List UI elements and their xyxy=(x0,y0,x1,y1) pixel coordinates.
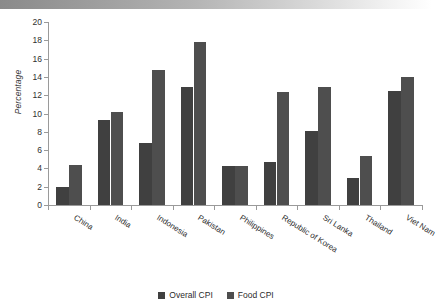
bar-china-overall-cpi xyxy=(56,187,69,205)
y-axis-tick-label: 20 xyxy=(33,17,42,27)
y-axis-tick xyxy=(44,114,49,115)
x-axis-label-thailand: Thailand xyxy=(363,213,394,237)
x-axis-tick xyxy=(214,205,215,210)
legend-item-food-cpi[interactable]: Food CPI xyxy=(227,290,274,300)
bar-philippines-food-cpi xyxy=(235,166,248,205)
x-axis-line xyxy=(48,205,422,206)
y-axis-tick xyxy=(44,95,49,96)
bar-pakistan-food-cpi xyxy=(194,42,207,205)
x-axis-tick xyxy=(90,205,91,210)
y-axis-tick-label: 0 xyxy=(37,200,42,210)
x-axis-tick xyxy=(48,205,49,210)
x-axis-label-sri-lanka: Sri Lanka xyxy=(321,213,354,239)
legend-label: Food CPI xyxy=(238,290,274,300)
x-axis-tick xyxy=(173,205,174,210)
bar-india-food-cpi xyxy=(111,112,124,205)
bar-philippines-overall-cpi xyxy=(222,166,235,205)
bar-chart: Percentage 02468101214161820 ChinaIndiaI… xyxy=(0,9,432,307)
bar-viet-nam-overall-cpi xyxy=(388,91,401,205)
bar-viet-nam-food-cpi xyxy=(401,77,414,205)
x-axis-label-china: China xyxy=(72,213,94,232)
bar-indonesia-overall-cpi xyxy=(139,143,152,205)
y-axis-tick xyxy=(44,187,49,188)
bar-indonesia-food-cpi xyxy=(152,70,165,205)
y-axis-tick xyxy=(44,150,49,151)
x-axis-tick xyxy=(380,205,381,210)
legend-swatch-icon xyxy=(158,292,165,299)
bar-thailand-food-cpi xyxy=(360,156,373,205)
legend-swatch-icon xyxy=(227,292,234,299)
bar-sri-lanka-food-cpi xyxy=(318,87,331,205)
y-axis-tick xyxy=(44,59,49,60)
x-axis-label-philippines: Philippines xyxy=(238,213,276,241)
y-axis-tick xyxy=(44,77,49,78)
bar-india-overall-cpi xyxy=(98,120,111,205)
chart-legend: Overall CPIFood CPI xyxy=(0,290,432,300)
plot-area: 02468101214161820 ChinaIndiaIndonesiaPak… xyxy=(48,22,422,205)
y-axis-tick xyxy=(44,40,49,41)
bar-republic-of-korea-overall-cpi xyxy=(264,162,277,205)
x-axis-tick xyxy=(297,205,298,210)
x-axis-tick xyxy=(422,205,423,210)
x-axis-label-viet-nam: Viet Nam xyxy=(404,213,437,238)
bar-thailand-overall-cpi xyxy=(347,178,360,205)
y-axis-tick xyxy=(44,168,49,169)
x-axis-tick xyxy=(131,205,132,210)
y-axis-tick-label: 18 xyxy=(33,35,42,45)
legend-item-overall-cpi[interactable]: Overall CPI xyxy=(158,290,212,300)
x-axis-label-india: India xyxy=(114,213,133,230)
y-axis-tick-label: 2 xyxy=(37,182,42,192)
y-axis-tick-label: 12 xyxy=(33,90,42,100)
y-axis-tick-label: 6 xyxy=(37,145,42,155)
header-banner xyxy=(0,0,432,9)
y-axis-tick xyxy=(44,132,49,133)
legend-label: Overall CPI xyxy=(169,290,212,300)
x-axis-label-indonesia: Indonesia xyxy=(155,213,189,239)
y-axis-tick-label: 14 xyxy=(33,72,42,82)
y-axis-tick-label: 4 xyxy=(37,163,42,173)
y-axis-tick-label: 8 xyxy=(37,127,42,137)
bar-sri-lanka-overall-cpi xyxy=(305,131,318,205)
bar-china-food-cpi xyxy=(69,165,82,205)
x-axis-tick xyxy=(339,205,340,210)
y-axis-title: Percentage xyxy=(13,57,23,127)
y-axis-tick-label: 16 xyxy=(33,54,42,64)
bar-republic-of-korea-food-cpi xyxy=(277,92,290,205)
bar-pakistan-overall-cpi xyxy=(181,87,194,205)
x-axis-label-pakistan: Pakistan xyxy=(197,213,228,237)
y-axis-tick-label: 10 xyxy=(33,109,42,119)
y-axis-tick xyxy=(44,22,49,23)
x-axis-tick xyxy=(256,205,257,210)
